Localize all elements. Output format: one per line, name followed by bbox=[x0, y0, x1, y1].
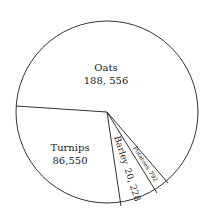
slice-value-turnips: 86,550 bbox=[53, 155, 88, 166]
pie-chart: Oats 188, 556 Turnips 86,550 Barley 20, … bbox=[0, 0, 210, 219]
slice-label-turnips: Turnips bbox=[50, 142, 89, 153]
slice-label-oats: Oats bbox=[94, 62, 117, 73]
pie-chart-svg: Oats 188, 556 Turnips 86,550 Barley 20, … bbox=[0, 0, 210, 219]
slice-value-oats: 188, 556 bbox=[84, 75, 129, 86]
